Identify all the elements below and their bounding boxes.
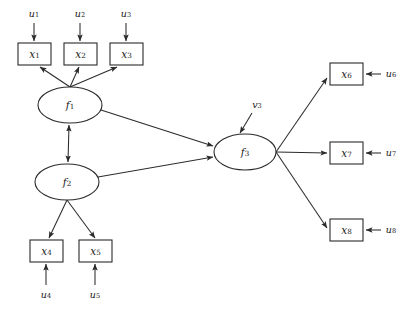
- label-u8: u8: [386, 224, 396, 236]
- arrow-f1-to-x3: [70, 67, 117, 87]
- node-x5: x5: [79, 240, 112, 262]
- label-v3: v3: [252, 99, 262, 111]
- arrow-f1-to-x1: [40, 67, 70, 87]
- label-u6: u6: [386, 68, 396, 80]
- residual-arrows-top: [34, 23, 126, 41]
- node-x4: x4: [30, 240, 63, 262]
- arrow-f3-to-x8: [276, 152, 327, 228]
- arrow-v3-to-f3: [240, 113, 252, 133]
- label-u5: u5: [90, 289, 100, 301]
- node-x6: x6: [330, 63, 363, 85]
- node-x3: x3: [110, 43, 143, 65]
- arrow-f3-to-x6: [276, 78, 327, 152]
- node-x8: x8: [330, 219, 363, 241]
- loading-arrows-f2: [49, 200, 95, 238]
- arrow-f1-f2-covariance: [68, 125, 69, 162]
- label-u1: u1: [29, 8, 39, 20]
- latent-variable-nodes: f1 f2 f3: [35, 87, 276, 200]
- node-x1: x1: [18, 43, 51, 65]
- node-x7: x7: [330, 142, 363, 164]
- arrow-f2-to-f3: [98, 157, 213, 177]
- residual-arrows-bottom: [46, 264, 95, 285]
- arrow-f1-to-f3: [101, 110, 213, 146]
- loading-arrows-f3: [276, 78, 327, 228]
- structural-paths-to-f3: [98, 110, 213, 177]
- node-f1: f1: [38, 87, 102, 123]
- label-u2: u2: [75, 8, 85, 20]
- label-u4: u4: [41, 289, 51, 301]
- sem-path-diagram: x1 x2 x3 x4 x5 x6: [0, 0, 412, 310]
- node-f3: f3: [214, 134, 276, 170]
- loading-arrows-f1: [40, 67, 117, 87]
- residual-arrows-right: [366, 74, 381, 230]
- arrow-f2-to-x4: [49, 200, 67, 238]
- label-u3: u3: [121, 8, 131, 20]
- arrow-f3-to-x7: [276, 152, 327, 153]
- arrow-f2-to-x5: [67, 200, 95, 238]
- node-x2: x2: [64, 43, 97, 65]
- label-u7: u7: [386, 147, 396, 159]
- node-f2: f2: [35, 164, 99, 200]
- diagram-canvas: x1 x2 x3 x4 x5 x6: [0, 0, 412, 310]
